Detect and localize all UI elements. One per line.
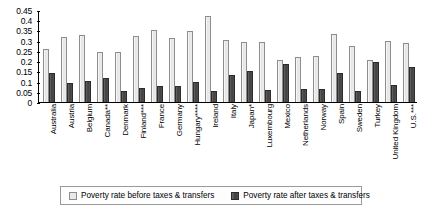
- bar-after-taxes: [175, 86, 181, 102]
- legend-swatch-after-icon: [231, 192, 239, 200]
- bar-after-taxes: [283, 64, 289, 102]
- bar-before-taxes: [205, 16, 211, 102]
- bar-group: [77, 11, 93, 102]
- legend-item-before: Poverty rate before taxes & transfers: [69, 191, 214, 200]
- bar-group: [293, 11, 309, 102]
- x-axis-category-label: Turkey: [374, 104, 382, 128]
- y-axis-tick-label: 0.4: [21, 17, 32, 26]
- bar-after-taxes: [67, 83, 73, 102]
- poverty-rate-bar-chart: 00.050.10.150.20.250.30.350.40.45 Austra…: [0, 0, 421, 213]
- bar-after-taxes: [319, 89, 325, 102]
- x-axis-category-label: United Kingdom: [392, 104, 400, 160]
- bar-after-taxes: [193, 82, 199, 102]
- bar-after-taxes: [103, 78, 109, 102]
- bar-group: [149, 11, 165, 102]
- bar-after-taxes: [85, 81, 91, 102]
- x-axis-category-label: Australia: [50, 104, 58, 134]
- x-axis: AustraliaAustriaBelgiumCanada**DenmarkFi…: [38, 104, 417, 172]
- bar-group: [167, 11, 183, 102]
- bar-after-taxes: [337, 73, 343, 102]
- bar-after-taxes: [409, 67, 415, 102]
- y-axis-tick-label: 0.15: [16, 68, 32, 77]
- bar-after-taxes: [139, 88, 145, 102]
- y-axis-tick-label: 0.2: [21, 58, 32, 67]
- x-axis-category-label: Austria: [68, 104, 76, 128]
- x-axis-category-label: Finland***: [140, 104, 148, 139]
- y-axis-tick-label: 0.1: [21, 78, 32, 87]
- bar-group: [347, 11, 363, 102]
- x-axis-category-label: Hungary****: [194, 104, 202, 146]
- bar-group: [113, 11, 129, 102]
- chart-legend: Poverty rate before taxes & transfers Po…: [60, 186, 362, 205]
- bar-groups: [39, 11, 417, 102]
- plot-area: [38, 11, 417, 103]
- x-axis-category-label: Netherlands: [302, 104, 310, 146]
- bar-after-taxes: [265, 90, 271, 102]
- y-axis-tick-label: 0.35: [16, 27, 32, 36]
- bar-after-taxes: [355, 91, 361, 102]
- bar-group: [221, 11, 237, 102]
- bar-group: [383, 11, 399, 102]
- bar-group: [131, 11, 147, 102]
- bar-group: [401, 11, 417, 102]
- x-axis-category-label: Luxembourg: [266, 104, 274, 147]
- bar-after-taxes: [157, 86, 163, 102]
- y-axis-tick-label: 0: [27, 99, 32, 108]
- legend-label-before: Poverty rate before taxes & transfers: [81, 191, 214, 200]
- bar-group: [365, 11, 381, 102]
- bar-group: [203, 11, 219, 102]
- bar-group: [95, 11, 111, 102]
- x-axis-category-label: Belgium: [86, 104, 94, 132]
- bar-group: [59, 11, 75, 102]
- x-axis-category-label: Norway: [320, 104, 328, 131]
- x-axis-category-label: Japan*: [248, 104, 256, 128]
- x-axis-category-label: Ireland: [212, 104, 220, 128]
- bar-after-taxes: [121, 91, 127, 102]
- y-axis-tick-label: 0.05: [16, 89, 32, 98]
- bar-group: [275, 11, 291, 102]
- legend-swatch-before-icon: [69, 192, 77, 200]
- bar-group: [311, 11, 327, 102]
- x-axis-category-label: Canada**: [104, 104, 112, 137]
- y-axis-tick-label: 0.3: [21, 37, 32, 46]
- x-axis-category-label: Spain: [338, 104, 346, 124]
- x-axis-category-label: Mexico: [284, 104, 292, 129]
- bar-after-taxes: [391, 85, 397, 102]
- x-axis-category-label: U.S.***: [410, 104, 418, 128]
- bar-after-taxes: [373, 62, 379, 102]
- bar-after-taxes: [247, 71, 253, 102]
- x-axis-category-label: Italy: [230, 104, 238, 118]
- bar-group: [185, 11, 201, 102]
- bar-after-taxes: [229, 75, 235, 102]
- x-axis-category-label: Sweden: [356, 104, 364, 132]
- x-axis-category-label: Germany: [176, 104, 184, 136]
- legend-label-after: Poverty rate after taxes & transfers: [243, 191, 370, 200]
- bar-group: [329, 11, 345, 102]
- bar-group: [239, 11, 255, 102]
- y-axis-tick-label: 0.25: [16, 48, 32, 57]
- bar-group: [257, 11, 273, 102]
- legend-item-after: Poverty rate after taxes & transfers: [231, 191, 370, 200]
- bar-after-taxes: [301, 89, 307, 102]
- x-axis-category-label: Denmark: [122, 104, 130, 136]
- y-axis-tick-label: 0.45: [16, 7, 32, 16]
- bar-after-taxes: [49, 73, 55, 102]
- bar-after-taxes: [211, 91, 217, 102]
- x-axis-category-label: France: [158, 104, 166, 128]
- y-axis: 00.050.10.150.20.250.30.350.40.45: [0, 11, 37, 103]
- bar-group: [41, 11, 57, 102]
